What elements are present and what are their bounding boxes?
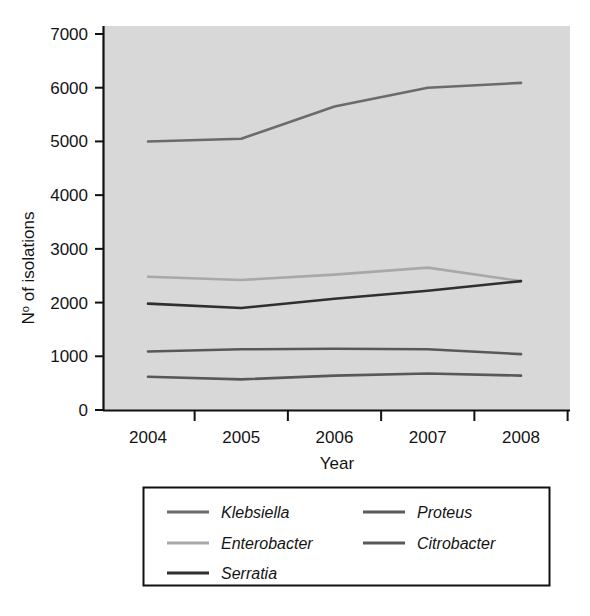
y-tick-label: 5000 (50, 132, 88, 151)
y-tick-label: 0 (79, 401, 88, 420)
legend-label: Klebsiella (221, 504, 290, 521)
legend-label: Serratia (221, 565, 277, 582)
y-axis-title-prefix: N (19, 312, 38, 324)
y-tick-label: 4000 (50, 186, 88, 205)
line-chart-figure: 70006000500040003000200010000 2004200520… (0, 0, 590, 616)
y-tick-label: 3000 (50, 240, 88, 259)
y-tick-label: 7000 (50, 25, 88, 44)
x-axis-title: Year (320, 454, 355, 473)
y-tick-label: 6000 (50, 79, 88, 98)
x-tick-label: 2007 (409, 428, 447, 447)
x-tick-label: 2006 (316, 428, 354, 447)
x-tick-label: 2008 (502, 428, 540, 447)
legend-label: Enterobacter (221, 535, 313, 552)
x-tick-label: 2004 (129, 428, 167, 447)
y-tick-label: 1000 (50, 347, 88, 366)
x-tick-label: 2005 (222, 428, 260, 447)
y-axis-title-suffix: of isolations (19, 212, 38, 307)
legend-label: Proteus (417, 504, 472, 521)
y-tick-label: 2000 (50, 294, 88, 313)
legend-label: Citrobacter (417, 535, 496, 552)
